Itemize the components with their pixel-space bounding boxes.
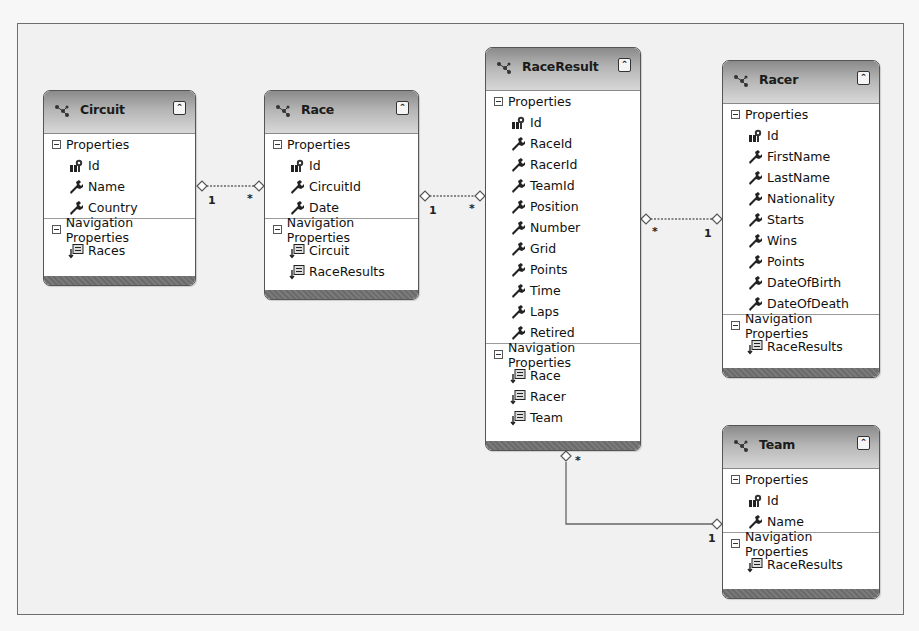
entity-circuit[interactable]: Circuit ⌃ Properties Id Name Country Nav…	[43, 90, 196, 286]
entity-raceresult[interactable]: RaceResult ⌃ Properties Id RaceId RacerI…	[485, 47, 641, 451]
properties-section: Properties Id CircuitId Date	[265, 134, 418, 218]
property-label: Starts	[767, 212, 804, 227]
property-grid[interactable]: Grid	[486, 238, 640, 259]
scalar-property-icon	[747, 149, 767, 165]
scalar-property-icon	[510, 262, 530, 278]
property-label: Nationality	[767, 191, 835, 206]
property-position[interactable]: Position	[486, 196, 640, 217]
properties-section-header[interactable]: Properties	[486, 91, 640, 112]
entity-type-icon	[496, 60, 512, 74]
entity-header[interactable]: Racer ⌃	[723, 61, 879, 104]
property-points[interactable]: Points	[723, 251, 879, 272]
property-racerid[interactable]: RacerId	[486, 154, 640, 175]
entity-title: Team	[759, 437, 795, 452]
entity-header[interactable]: Race ⌃	[265, 91, 418, 134]
collapse-minus-icon[interactable]	[52, 225, 61, 234]
property-raceid[interactable]: RaceId	[486, 133, 640, 154]
entity-team[interactable]: Team ⌃ Properties Id Name Navigation Pro…	[722, 425, 880, 599]
key-property-icon	[289, 158, 309, 174]
entity-title: RaceResult	[522, 59, 599, 74]
multiplicity-raceresult-racer-to: 1	[704, 227, 712, 240]
navigation-section: Navigation Properties RaceResults	[723, 532, 879, 575]
entity-header[interactable]: Team ⌃	[723, 426, 879, 469]
collapse-minus-icon[interactable]	[494, 350, 503, 359]
section-label: Navigation Properties	[745, 311, 879, 341]
property-points[interactable]: Points	[486, 259, 640, 280]
collapse-chevron-icon[interactable]: ⌃	[396, 101, 409, 115]
entity-type-icon	[733, 73, 749, 87]
collapse-chevron-icon[interactable]: ⌃	[857, 71, 870, 85]
property-lastname[interactable]: LastName	[723, 167, 879, 188]
collapse-chevron-icon[interactable]: ⌃	[173, 101, 186, 115]
collapse-minus-icon[interactable]	[731, 475, 740, 484]
collapse-chevron-icon[interactable]: ⌃	[857, 436, 870, 450]
scalar-property-icon	[510, 157, 530, 173]
entity-header[interactable]: Circuit ⌃	[44, 91, 195, 134]
multiplicity-circuit-race-from: 1	[208, 194, 216, 207]
property-id[interactable]: Id	[723, 125, 879, 146]
property-label: Retired	[530, 325, 575, 340]
properties-section-header[interactable]: Properties	[723, 104, 879, 125]
property-label: RaceId	[530, 136, 572, 151]
property-id[interactable]: Id	[265, 155, 418, 176]
navigation-section-header[interactable]: Navigation Properties	[723, 533, 879, 554]
property-label: CircuitId	[309, 179, 361, 194]
property-label: Name	[767, 514, 804, 529]
collapse-minus-icon[interactable]	[273, 140, 282, 149]
navigation-label: Race	[530, 368, 561, 383]
property-circuitid[interactable]: CircuitId	[265, 176, 418, 197]
collapse-minus-icon[interactable]	[731, 539, 740, 548]
navigation-property-racer[interactable]: Racer	[486, 386, 640, 407]
navigation-section-header[interactable]: Navigation Properties	[44, 219, 195, 240]
multiplicity-raceresult-racer-from: *	[652, 225, 658, 238]
property-nationality[interactable]: Nationality	[723, 188, 879, 209]
navigation-property-icon	[68, 243, 88, 259]
property-number[interactable]: Number	[486, 217, 640, 238]
properties-section-header[interactable]: Properties	[723, 469, 879, 490]
property-id[interactable]: Id	[44, 155, 195, 176]
scalar-property-icon	[747, 233, 767, 249]
multiplicity-race-raceresult-from: 1	[429, 204, 437, 217]
collapse-minus-icon[interactable]	[494, 97, 503, 106]
navigation-section-header[interactable]: Navigation Properties	[723, 315, 879, 336]
property-wins[interactable]: Wins	[723, 230, 879, 251]
properties-section-header[interactable]: Properties	[265, 134, 418, 155]
collapse-minus-icon[interactable]	[731, 110, 740, 119]
property-teamid[interactable]: TeamId	[486, 175, 640, 196]
navigation-section-header[interactable]: Navigation Properties	[486, 344, 640, 365]
scalar-property-icon	[747, 296, 767, 312]
property-dateofbirth[interactable]: DateOfBirth	[723, 272, 879, 293]
properties-section-header[interactable]: Properties	[44, 134, 195, 155]
property-name[interactable]: Name	[44, 176, 195, 197]
collapse-chevron-icon[interactable]: ⌃	[618, 58, 631, 72]
entity-race[interactable]: Race ⌃ Properties Id CircuitId Date Navi…	[264, 90, 419, 300]
properties-section: Properties Id Name Country	[44, 134, 195, 218]
entity-header[interactable]: RaceResult ⌃	[486, 48, 640, 91]
property-id[interactable]: Id	[723, 490, 879, 511]
entity-racer[interactable]: Racer ⌃ Properties Id FirstName LastName…	[722, 60, 880, 378]
entity-title: Race	[301, 102, 334, 117]
property-starts[interactable]: Starts	[723, 209, 879, 230]
collapse-minus-icon[interactable]	[731, 321, 740, 330]
navigation-property-raceresults[interactable]: RaceResults	[265, 261, 418, 282]
property-id[interactable]: Id	[486, 112, 640, 133]
collapse-minus-icon[interactable]	[52, 140, 61, 149]
scalar-property-icon	[747, 275, 767, 291]
scalar-property-icon	[510, 283, 530, 299]
navigation-section-header[interactable]: Navigation Properties	[265, 219, 418, 240]
navigation-property-icon	[510, 389, 530, 405]
property-time[interactable]: Time	[486, 280, 640, 301]
section-label: Navigation Properties	[508, 340, 640, 370]
navigation-property-team[interactable]: Team	[486, 407, 640, 428]
entity-footer	[723, 368, 879, 377]
property-label: Number	[530, 220, 580, 235]
entity-footer	[265, 290, 418, 299]
scalar-property-icon	[510, 136, 530, 152]
property-laps[interactable]: Laps	[486, 301, 640, 322]
property-firstname[interactable]: FirstName	[723, 146, 879, 167]
scalar-property-icon	[510, 325, 530, 341]
collapse-minus-icon[interactable]	[273, 225, 282, 234]
section-label: Navigation Properties	[66, 215, 195, 245]
navigation-section: Navigation Properties RaceResults	[723, 314, 879, 357]
multiplicity-raceresult-team-to: 1	[708, 532, 716, 545]
